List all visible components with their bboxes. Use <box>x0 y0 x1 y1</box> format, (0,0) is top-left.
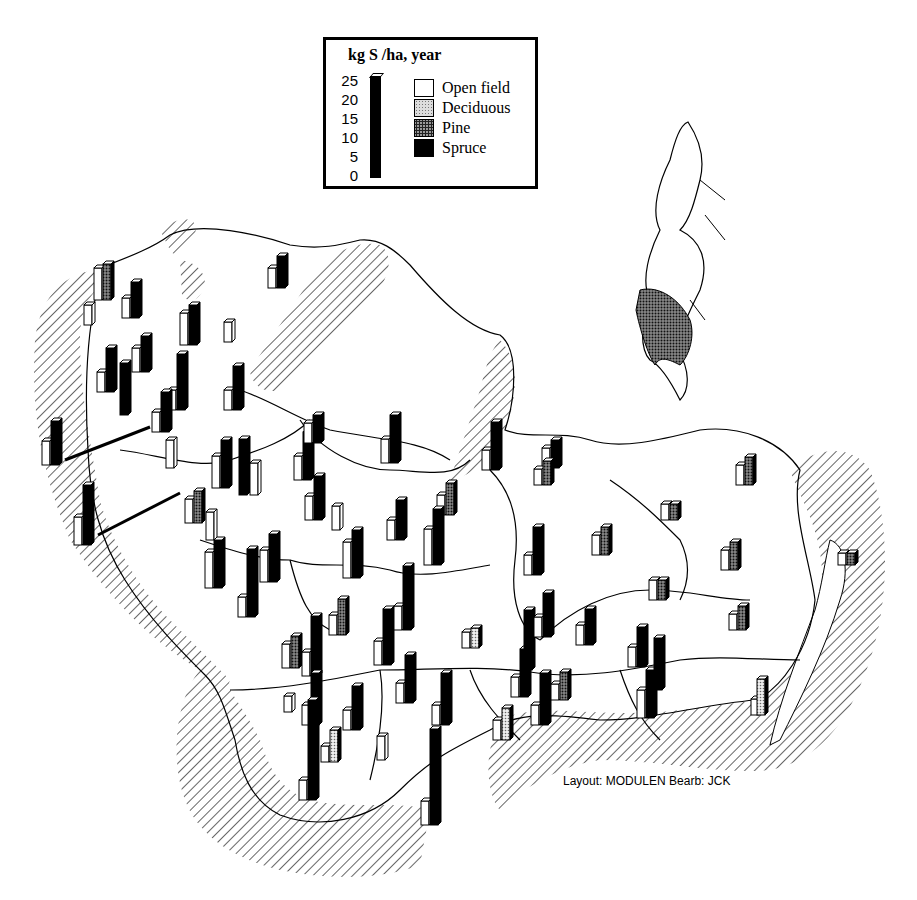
axis-tick-label: 5 <box>336 149 358 164</box>
legend-item-deciduous: Deciduous <box>414 98 510 118</box>
pine-swatch-icon <box>414 119 434 137</box>
inset-map-sweden <box>636 122 725 400</box>
scale-bar <box>370 76 381 178</box>
legend-item-open-field: Open field <box>414 78 510 98</box>
deciduous-swatch-icon <box>414 99 434 117</box>
legend: kg S /ha, year 25 20 15 10 5 0 Open fiel… <box>323 37 538 189</box>
axis-tick-label: 10 <box>336 130 358 145</box>
legend-item-pine: Pine <box>414 118 470 138</box>
legend-title: kg S /ha, year <box>348 46 441 64</box>
spruce-swatch-icon <box>414 139 434 157</box>
axis-tick-label: 0 <box>336 168 358 183</box>
axis-tick-label: 25 <box>336 73 358 88</box>
open-field-swatch-icon <box>414 79 434 97</box>
legend-item-spruce: Spruce <box>414 138 486 158</box>
axis-tick-label: 15 <box>336 111 358 126</box>
layout-credit: Layout: MODULEN Bearb: JCK <box>563 774 730 788</box>
sea-hatching <box>34 219 885 877</box>
axis-tick-label: 20 <box>336 92 358 107</box>
